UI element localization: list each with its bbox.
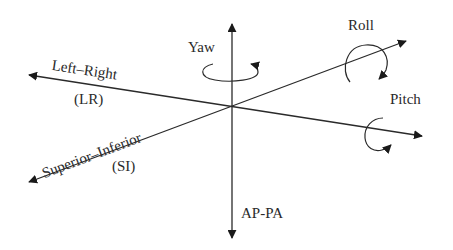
left-right-abbr: (LR) xyxy=(74,92,103,107)
motion-axes-diagram: Yaw Roll Pitch Left–Right (LR) Superior–… xyxy=(0,0,453,250)
pitch-label: Pitch xyxy=(390,92,421,107)
yaw-label: Yaw xyxy=(188,40,215,55)
axes-drawing xyxy=(0,0,453,250)
roll-label: Roll xyxy=(348,18,374,33)
superior-inferior-abbr: (SI) xyxy=(112,159,135,174)
yaw-rotation-icon xyxy=(203,64,258,81)
pitch-rotation-icon xyxy=(365,118,391,151)
ap-pa-label: AP-PA xyxy=(241,206,283,221)
